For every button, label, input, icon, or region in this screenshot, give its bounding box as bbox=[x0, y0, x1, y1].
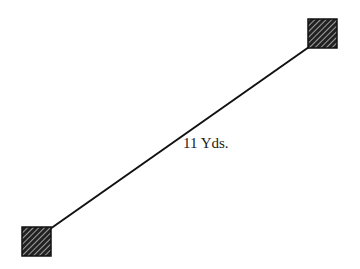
start-marker bbox=[22, 227, 51, 256]
distance-label: 11 Yds. bbox=[183, 135, 229, 151]
end-marker bbox=[308, 19, 337, 48]
distance-diagram: 11 Yds. bbox=[0, 0, 360, 269]
distance-line bbox=[50, 47, 309, 229]
